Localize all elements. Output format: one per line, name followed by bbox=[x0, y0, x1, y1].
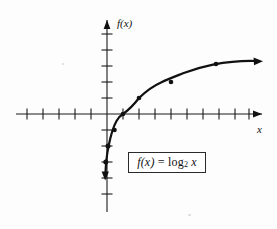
equation-label-text: f(x) = log2 x bbox=[137, 155, 197, 170]
scan-speck bbox=[62, 63, 64, 65]
equation-fn-part: f(x) bbox=[137, 155, 154, 169]
y-axis-group bbox=[102, 20, 113, 212]
equation-label-box: f(x) = log2 x bbox=[128, 152, 206, 173]
equation-variable: x bbox=[188, 155, 197, 169]
data-point bbox=[103, 160, 108, 165]
data-point bbox=[137, 96, 142, 101]
curve-right-arrowhead bbox=[254, 58, 264, 66]
y-axis-arrowhead bbox=[104, 20, 111, 29]
x-axis-arrowhead bbox=[253, 111, 262, 118]
data-point bbox=[214, 62, 219, 67]
y-axis-label: f(x) bbox=[117, 17, 133, 30]
equation-equals-log: = log bbox=[155, 155, 184, 169]
data-point bbox=[106, 144, 111, 149]
data-point bbox=[121, 112, 126, 117]
plotted-points-group bbox=[103, 62, 218, 165]
log-function-graph-figure: f(x) x f(x) = log2 x bbox=[0, 0, 277, 229]
data-point bbox=[112, 128, 117, 133]
scan-speck bbox=[188, 214, 191, 216]
curve-down-arrowhead bbox=[102, 172, 109, 181]
x-axis-group bbox=[16, 109, 262, 120]
data-point bbox=[169, 80, 174, 85]
graph-canvas: f(x) x bbox=[0, 0, 277, 229]
x-axis-label: x bbox=[256, 123, 262, 135]
